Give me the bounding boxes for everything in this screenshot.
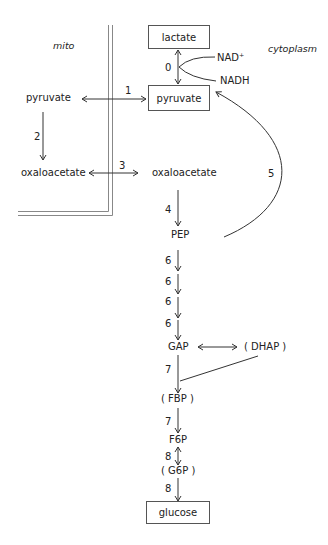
step-4-label: 4 xyxy=(165,204,171,216)
lactate-box: lactate xyxy=(148,25,210,49)
oxaloacetate-cyto-label: oxaloacetate xyxy=(152,167,217,179)
mitochondrial-membrane xyxy=(18,25,113,216)
step-6b-label: 6 xyxy=(165,276,171,288)
pyruvate-cyto-box: pyruvate xyxy=(148,85,210,111)
step-7b-label: 7 xyxy=(165,416,171,428)
step-8a-label: 8 xyxy=(165,451,171,463)
pyruvate-cyto-label: pyruvate xyxy=(157,93,202,104)
step-6a-label: 6 xyxy=(165,255,171,267)
lactate-label: lactate xyxy=(162,32,197,43)
pep-label: PEP xyxy=(171,229,189,241)
step-1-label: 1 xyxy=(125,85,131,97)
fbp-label: ( FBP ) xyxy=(161,393,194,405)
region-label-cytoplasm: cytoplasm xyxy=(268,43,317,55)
oxaloacetate-mito-label: oxaloacetate xyxy=(21,167,86,179)
step-5-label: 5 xyxy=(268,168,274,180)
f6p-label: F6P xyxy=(169,434,187,446)
nadh-curve xyxy=(179,67,216,81)
step-2-label: 2 xyxy=(34,131,40,143)
step-0-label: 0 xyxy=(165,62,171,74)
dhap-label: ( DHAP ) xyxy=(244,341,286,353)
dhap-join-line xyxy=(180,356,258,381)
gap-label: GAP xyxy=(168,341,189,353)
pyruvate-mito-label: pyruvate xyxy=(26,92,71,104)
step-8b-label: 8 xyxy=(165,483,171,495)
nadh-label: NADH xyxy=(220,75,250,87)
step-3-label: 3 xyxy=(119,160,125,172)
nad-plus-curve xyxy=(179,57,215,67)
step-7a-label: 7 xyxy=(165,364,171,376)
glucose-box: glucose xyxy=(146,501,210,524)
region-label-mito: mito xyxy=(53,40,74,52)
g6p-label: ( G6P ) xyxy=(161,465,195,477)
step-6d-label: 6 xyxy=(165,318,171,330)
arrow-step-5 xyxy=(216,92,282,237)
pathway-diagram-lines xyxy=(0,0,328,545)
glucose-label: glucose xyxy=(159,507,197,518)
step-6c-label: 6 xyxy=(165,296,171,308)
nad-plus-label: NAD⁺ xyxy=(217,52,244,64)
